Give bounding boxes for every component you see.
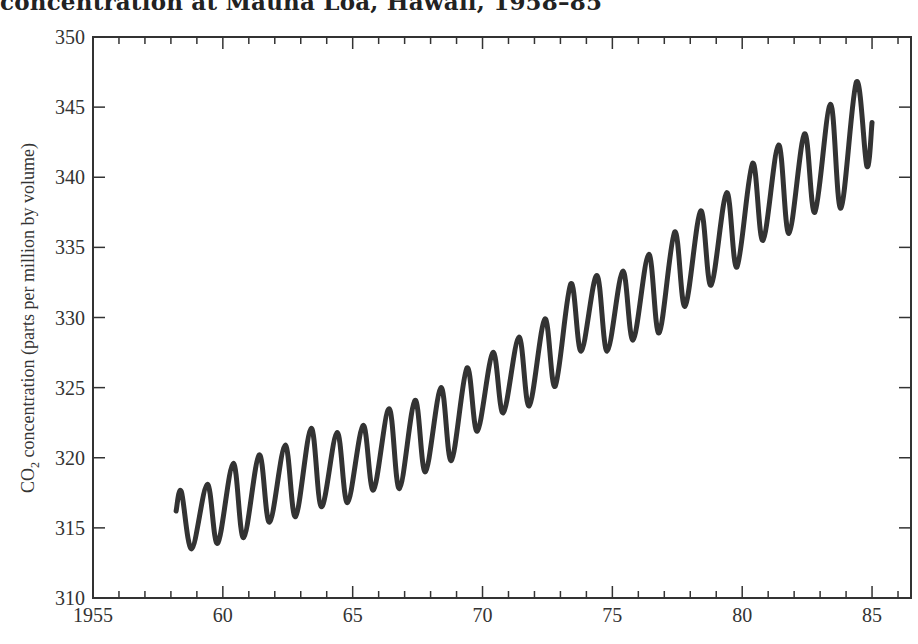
y-tick-label: 345 — [55, 96, 85, 118]
y-tick-label: 310 — [55, 587, 85, 609]
y-axis-label: CO2 concentration (parts per million by … — [18, 143, 42, 493]
co2-line-chart: 1955606570758085 31031532032533033534034… — [0, 0, 918, 644]
x-tick-label: 60 — [213, 604, 233, 626]
y-tick-label: 315 — [55, 517, 85, 539]
y-tick-label: 340 — [55, 166, 85, 188]
x-tick-label: 75 — [602, 604, 622, 626]
y-tick-label: 320 — [55, 447, 85, 469]
y-tick-label: 325 — [55, 377, 85, 399]
y-tick-label: 335 — [55, 236, 85, 258]
plot-border — [93, 37, 911, 598]
y-tick-label: 330 — [55, 307, 85, 329]
x-tick-label: 85 — [862, 604, 882, 626]
x-tick-label: 65 — [343, 604, 363, 626]
axis-ticks — [93, 37, 911, 598]
x-tick-label: 80 — [732, 604, 752, 626]
axes-frame — [93, 37, 911, 598]
x-tick-labels: 1955606570758085 — [73, 604, 882, 626]
x-tick-label: 70 — [473, 604, 493, 626]
y-tick-label: 350 — [55, 26, 85, 48]
co2-series-line — [176, 81, 872, 548]
y-tick-labels: 310315320325330335340345350 — [55, 26, 85, 609]
